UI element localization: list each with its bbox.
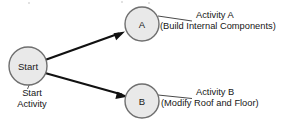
annotation-start-activity-line1: Start xyxy=(8,88,56,99)
annotation-start-activity: Start Activity xyxy=(8,88,56,110)
annotation-activity-a-line1: Activity A xyxy=(196,10,276,21)
annotation-start-activity-line2: Activity xyxy=(8,99,56,110)
node-a[interactable]: A xyxy=(125,7,159,41)
edge-start-to-b-line xyxy=(45,73,122,95)
edge-start-to-b xyxy=(45,73,129,99)
node-a-label: A xyxy=(139,19,146,30)
edge-start-to-a-arrowhead xyxy=(114,32,126,41)
annotation-activity-b-line1: Activity B xyxy=(196,87,259,98)
scan-speck xyxy=(28,2,30,4)
annotation-activity-b: Activity B (Modify Roof and Floor) xyxy=(196,87,259,109)
node-start[interactable]: Start xyxy=(9,47,47,85)
activity-network-diagram: Start A B Activity A (Build Internal Com… xyxy=(0,0,292,124)
node-start-label: Start xyxy=(18,61,38,72)
node-b-label: B xyxy=(139,96,145,107)
scan-speck xyxy=(121,1,123,3)
node-b[interactable]: B xyxy=(125,84,159,118)
edge-start-to-a-line xyxy=(45,34,119,61)
annotation-activity-a: Activity A (Build Internal Components) xyxy=(196,10,276,32)
annotation-activity-a-line2: (Build Internal Components) xyxy=(160,21,276,32)
scan-speck xyxy=(148,2,150,4)
annotation-activity-b-line2: (Modify Roof and Floor) xyxy=(161,98,259,109)
edge-start-to-a xyxy=(45,32,125,61)
